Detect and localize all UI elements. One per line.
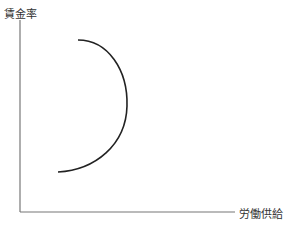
- x-axis-label: 労働供給: [239, 205, 283, 221]
- labor-supply-curve: [58, 40, 127, 172]
- diagram-canvas: [0, 0, 284, 227]
